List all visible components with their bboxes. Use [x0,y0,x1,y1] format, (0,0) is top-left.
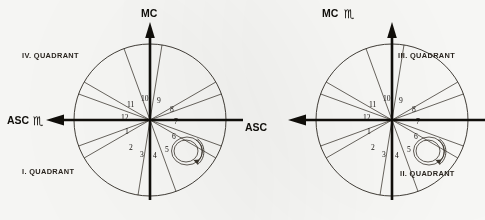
house-number-3: 3 [140,150,144,159]
quadrant-iii-label: III. QUADRANT [398,51,455,60]
quadrant-i-label: I. QUADRANT [22,167,74,176]
cusp-line-9 [366,49,392,120]
house-number-5: 5 [407,145,411,154]
quadrant-ii-label: II. QUADRANT [400,169,455,178]
cusp-line-6 [79,120,150,146]
house-number-6: 6 [172,132,176,141]
mc-label: MC [141,7,158,19]
house-number-7: 7 [174,117,178,126]
scorpio-glyph-icon: ♏ [344,7,355,21]
house-number-2: 2 [129,143,133,152]
cusp-line-12 [150,120,221,146]
house-number-7: 7 [416,117,420,126]
asc-horizontal-axis [288,115,485,126]
spiral-rotation-indicator-icon [414,137,446,165]
house-number-4: 4 [153,151,157,160]
asc-arrow-icon [288,115,306,126]
house-number-10: 10 [383,94,391,103]
house-number-4: 4 [395,151,399,160]
spiral-rotation-indicator-icon [172,137,204,165]
cusp-line-9 [124,49,150,120]
house-number-1: 1 [367,127,371,136]
cusp-line-12 [392,120,463,146]
cusp-line-7 [79,94,150,120]
house-number-9: 9 [157,96,161,105]
house-number-8: 8 [412,105,416,114]
left-house-wheel-chart: MC ASC ♏ IV. QUADRANT I. QUADRANT 1 2 3 … [0,0,243,220]
asc-horizontal-axis [46,115,243,126]
house-number-3: 3 [382,150,386,159]
house-number-5: 5 [165,145,169,154]
house-number-2: 2 [371,143,375,152]
cusp-line-6 [321,120,392,146]
asc-label: ASC [245,121,268,133]
house-number-6: 6 [414,132,418,141]
asc-arrow-icon [46,115,64,126]
cusp-line-2 [392,120,458,158]
house-number-10: 10 [141,94,149,103]
house-number-12: 12 [363,113,371,122]
house-number-8: 8 [170,105,174,114]
house-number-9: 9 [399,96,403,105]
right-house-wheel-chart: MC ♏ ASC III. QUADRANT II. QUADRANT 1 2 … [242,0,485,220]
cusp-line-7 [321,94,392,120]
mc-arrow-icon [145,22,155,38]
mc-label: MC [322,7,339,19]
house-number-1: 1 [125,127,129,136]
diagram-canvas: MC ASC ♏ IV. QUADRANT I. QUADRANT 1 2 3 … [0,0,485,220]
house-number-11: 11 [127,100,135,109]
house-number-11: 11 [369,100,377,109]
scorpio-glyph-icon: ♏ [33,114,44,128]
quadrant-iv-label: IV. QUADRANT [22,51,79,60]
cusp-line-10 [150,45,162,120]
mc-arrow-icon [387,22,397,38]
asc-label: ASC [7,114,30,126]
cusp-line-2 [150,120,216,158]
house-number-12: 12 [121,113,129,122]
